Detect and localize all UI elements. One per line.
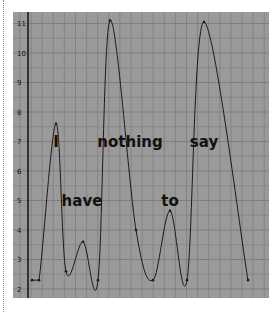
y-tick-label: 5: [17, 197, 21, 205]
data-point: [203, 21, 206, 24]
data-point: [82, 241, 85, 244]
data-point: [38, 279, 41, 282]
y-tick-label: 9: [17, 79, 21, 87]
y-tick-label: 11: [17, 20, 26, 28]
y-tick-label: 2: [17, 286, 21, 294]
data-point: [152, 279, 155, 282]
data-point: [169, 210, 172, 213]
data-point: [31, 279, 34, 282]
y-tick-label: 10: [17, 50, 26, 58]
word-label: to: [161, 192, 178, 210]
y-tick-label: 8: [17, 109, 21, 117]
y-tick-label: 6: [17, 168, 22, 176]
word-label: I: [53, 133, 59, 151]
data-point: [135, 229, 138, 232]
word-label: have: [62, 192, 103, 210]
data-point: [55, 123, 58, 126]
data-point: [186, 279, 189, 282]
data-point: [247, 279, 250, 282]
y-tick-label: 7: [17, 138, 21, 146]
word-label: say: [190, 133, 219, 151]
y-tick-label: 3: [17, 256, 21, 264]
word-label: nothing: [97, 133, 162, 151]
y-tick-label: 4: [17, 227, 22, 235]
data-point: [97, 279, 100, 282]
line-chart: 234567891011Ihavenothingtosay: [0, 0, 278, 312]
data-point: [109, 19, 112, 22]
data-point: [65, 270, 68, 273]
